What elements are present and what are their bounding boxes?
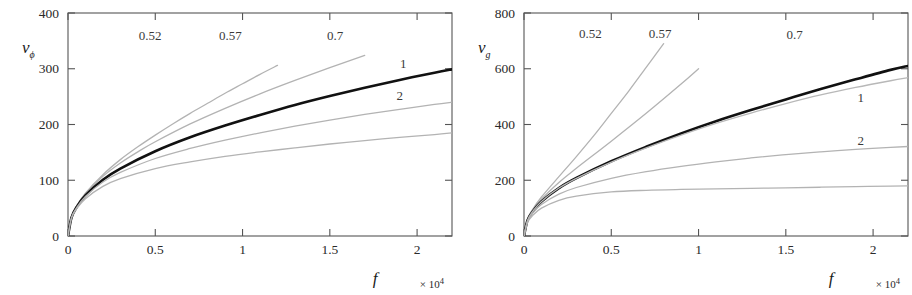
- x-tick-label: 1: [695, 242, 702, 257]
- curve-2: [68, 133, 452, 236]
- chart-panel-phase-velocity: 010020030040000.511.520.520.570.712vϕf× …: [0, 0, 456, 295]
- x-tick-label: 1.5: [777, 242, 794, 257]
- y-tick-label: 300: [39, 61, 60, 76]
- curve-2: [524, 186, 908, 236]
- x-axis-label: f: [829, 269, 836, 288]
- curve-label-1: 1: [858, 90, 865, 105]
- curve-label-1: 1: [400, 56, 407, 71]
- y-tick-label: 100: [39, 173, 60, 188]
- plot-frame: [524, 13, 908, 236]
- x-tick-label: 1: [239, 242, 246, 257]
- y-tick-label: 800: [495, 6, 516, 21]
- x-tick-label: 0: [65, 242, 72, 257]
- curve-label-0.57: 0.57: [219, 28, 242, 43]
- curve-label-0.52: 0.52: [139, 28, 162, 43]
- plot-svg-left: 010020030040000.511.520.520.570.712vϕf× …: [0, 0, 456, 295]
- curve-1: [68, 102, 452, 236]
- y-tick-label: 400: [495, 117, 516, 132]
- curve-0.57: [524, 69, 699, 236]
- curve-0.52: [524, 44, 664, 236]
- x-axis-multiplier: × 104: [420, 276, 445, 290]
- curve-label-0.7: 0.7: [786, 27, 803, 42]
- chart-panel-group-velocity: 020040060080000.511.520.520.570.712vgf× …: [456, 0, 912, 295]
- y-tick-label: 400: [39, 6, 60, 21]
- y-tick-label: 200: [495, 173, 516, 188]
- x-axis-label: f: [373, 269, 380, 288]
- plot-frame: [68, 13, 452, 236]
- x-tick-label: 0.5: [147, 242, 164, 257]
- y-tick-label: 0: [508, 229, 515, 244]
- figure-container: 010020030040000.511.520.520.570.712vϕf× …: [0, 0, 912, 295]
- x-tick-label: 0: [521, 242, 528, 257]
- curve-label-2: 2: [396, 88, 403, 103]
- x-tick-label: 2: [414, 242, 421, 257]
- y-tick-label: 0: [52, 229, 59, 244]
- plot-svg-right: 020040060080000.511.520.520.570.712vgf× …: [456, 0, 912, 295]
- curve-0.7-gray: [524, 78, 908, 236]
- curve-1: [524, 147, 908, 236]
- x-tick-label: 2: [870, 242, 877, 257]
- x-axis-multiplier: × 104: [876, 276, 901, 290]
- curve-label-2: 2: [858, 133, 865, 148]
- y-axis-label: vg: [478, 38, 491, 60]
- curve-label-0.52: 0.52: [579, 26, 602, 41]
- y-tick-label: 600: [495, 61, 516, 76]
- y-tick-label: 200: [39, 117, 60, 132]
- y-axis-label: vϕ: [22, 38, 35, 60]
- x-tick-label: 1.5: [321, 242, 338, 257]
- x-tick-label: 0.5: [603, 242, 620, 257]
- curve-label-0.57: 0.57: [649, 26, 672, 41]
- curve-label-0.7: 0.7: [327, 28, 344, 43]
- curve-0.52: [68, 65, 277, 236]
